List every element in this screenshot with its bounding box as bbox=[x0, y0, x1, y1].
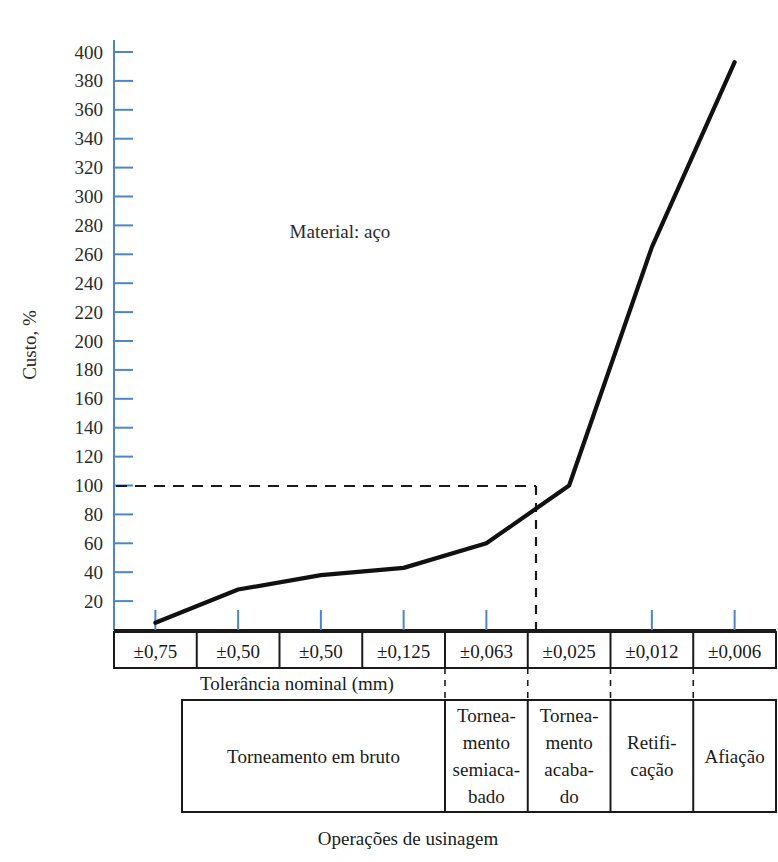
operation-label-line: bado bbox=[468, 786, 505, 807]
operation-label-line: do bbox=[560, 786, 579, 807]
y-tick-label: 400 bbox=[75, 42, 104, 63]
tolerance-cell-label: ±0,063 bbox=[460, 641, 513, 662]
y-tick-label: 100 bbox=[75, 475, 104, 496]
tolerance-cell-label: ±0,012 bbox=[625, 641, 678, 662]
cost-curve bbox=[155, 62, 734, 623]
tolerance-cell-label: ±0,75 bbox=[134, 641, 178, 662]
operation-label-line: Torneamento em bruto bbox=[227, 746, 400, 767]
operation-label-line: mento bbox=[545, 732, 593, 753]
y-tick-label: 340 bbox=[75, 128, 104, 149]
y-tick-label: 20 bbox=[84, 591, 103, 612]
operation-label-line: Retifi- bbox=[627, 732, 677, 753]
operation-label-line: cação bbox=[630, 759, 673, 780]
tolerance-row-label: Tolerância nominal (mm) bbox=[200, 673, 394, 695]
y-axis-ticks: 4003803603403203002802602402202001801601… bbox=[75, 42, 134, 612]
tolerance-cell-label: ±0,125 bbox=[377, 641, 430, 662]
operation-label-line: acaba- bbox=[544, 759, 594, 780]
y-tick-label: 280 bbox=[75, 215, 104, 236]
y-tick-label: 360 bbox=[75, 99, 104, 120]
y-tick-label: 380 bbox=[75, 70, 104, 91]
tolerance-table: ±0,75±0,50±0,50±0,125±0,063±0,025±0,012±… bbox=[114, 632, 776, 668]
y-tick-label: 120 bbox=[75, 446, 104, 467]
y-tick-label: 40 bbox=[84, 562, 103, 583]
operation-label-line: Tornea- bbox=[457, 705, 516, 726]
material-annotation: Material: aço bbox=[290, 221, 391, 242]
y-tick-label: 180 bbox=[75, 359, 104, 380]
y-tick-label: 260 bbox=[75, 244, 104, 265]
y-tick-label: 80 bbox=[84, 504, 103, 525]
y-tick-label: 140 bbox=[75, 417, 104, 438]
operation-label-line: mento bbox=[463, 732, 511, 753]
tolerance-cell-label: ±0,50 bbox=[216, 641, 260, 662]
operation-label-line: semiaca- bbox=[453, 759, 521, 780]
y-tick-label: 220 bbox=[75, 302, 104, 323]
tolerance-cell-label: ±0,025 bbox=[543, 641, 596, 662]
y-tick-label: 200 bbox=[75, 331, 104, 352]
y-axis-title: Custo, % bbox=[19, 310, 40, 380]
operation-label-line: Tornea- bbox=[540, 705, 599, 726]
y-tick-label: 60 bbox=[84, 533, 103, 554]
cost-vs-tolerance-figure: 4003803603403203002802602402202001801601… bbox=[0, 0, 778, 862]
tolerance-cell-label: ±0,006 bbox=[708, 641, 761, 662]
figure-caption: Operações de usinagem bbox=[318, 828, 499, 849]
y-tick-label: 300 bbox=[75, 186, 104, 207]
y-tick-label: 160 bbox=[75, 388, 104, 409]
chart-canvas: 4003803603403203002802602402202001801601… bbox=[0, 0, 778, 862]
y-tick-label: 240 bbox=[75, 273, 104, 294]
y-tick-label: 320 bbox=[75, 157, 104, 178]
x-axis-ticks bbox=[155, 610, 734, 630]
operation-label-line: Afiação bbox=[705, 746, 765, 767]
tolerance-cell-label: ±0,50 bbox=[299, 641, 343, 662]
